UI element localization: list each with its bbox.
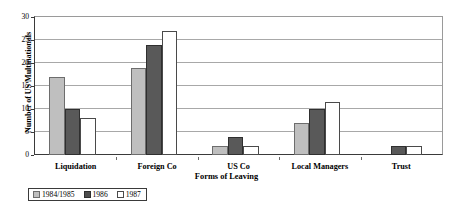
- legend-item: 1984/1985: [33, 190, 75, 199]
- x-axis-tick-mark: [279, 157, 280, 160]
- x-axis-category-label: Liquidation: [35, 162, 116, 171]
- x-axis-labels: LiquidationForeign CoUS CoLocal Managers…: [35, 157, 442, 173]
- bar: [80, 118, 96, 155]
- bar: [146, 45, 162, 155]
- bar: [228, 137, 244, 155]
- bar: [294, 123, 310, 155]
- bars-layer: [35, 17, 442, 155]
- legend-label: 1984/1985: [42, 190, 75, 199]
- legend-item: 1987: [117, 190, 141, 199]
- x-axis-tick-mark: [116, 157, 117, 160]
- bar: [325, 102, 341, 155]
- bar: [162, 31, 178, 155]
- x-axis-category-label: Foreign Co: [116, 162, 197, 171]
- bar: [309, 109, 325, 155]
- legend: 1984/198519861987: [28, 188, 147, 201]
- legend-swatch: [33, 191, 40, 198]
- legend-label: 1986: [93, 190, 108, 199]
- x-axis-tick-mark: [198, 157, 199, 160]
- bar: [65, 109, 81, 155]
- x-axis-category-label: Trust: [361, 162, 442, 171]
- bar: [131, 68, 147, 155]
- legend-swatch: [117, 191, 124, 198]
- y-axis-title: Number of US Multinationals: [24, 3, 33, 163]
- bar: [212, 146, 228, 155]
- bar: [406, 146, 422, 155]
- x-axis-category-label: Local Managers: [279, 162, 360, 171]
- legend-label: 1987: [126, 190, 141, 199]
- legend-item: 1986: [84, 190, 108, 199]
- x-axis-category-label: US Co: [198, 162, 279, 171]
- bar-chart: Number of US Multinationals 051015202530…: [0, 0, 453, 212]
- legend-swatch: [84, 191, 91, 198]
- bar: [49, 77, 65, 155]
- bar: [243, 146, 259, 155]
- bar: [391, 146, 407, 155]
- x-axis-tick-mark: [361, 157, 362, 160]
- x-axis-title: Forms of Leaving: [0, 172, 453, 181]
